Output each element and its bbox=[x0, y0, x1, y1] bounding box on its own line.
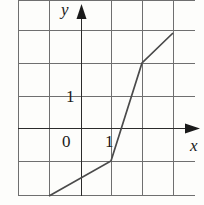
origin-label: 0 bbox=[62, 133, 71, 150]
coordinate-grid-svg bbox=[0, 0, 204, 205]
y-axis-arrowhead bbox=[77, 4, 87, 19]
x-axis-arrowhead bbox=[185, 124, 200, 134]
grid-horizontal-lines bbox=[18, 1, 195, 196]
y-axis-label: y bbox=[61, 1, 69, 18]
y-axis bbox=[77, 4, 87, 196]
graph-figure: y x 0 1 1 bbox=[0, 0, 204, 205]
x-axis-label: x bbox=[190, 137, 198, 154]
x-axis-tick-label-1: 1 bbox=[105, 133, 114, 150]
grid-vertical-lines bbox=[19, 0, 174, 196]
y-axis-tick-label-1: 1 bbox=[66, 88, 75, 105]
